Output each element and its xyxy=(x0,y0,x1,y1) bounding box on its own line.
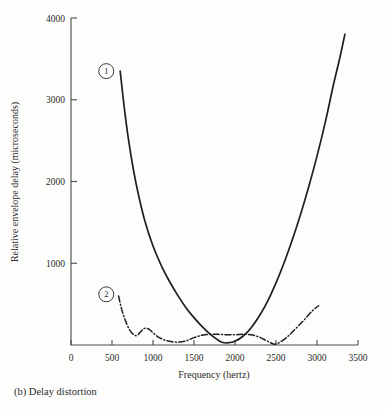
series-marker-label-2: 2 xyxy=(104,289,108,299)
x-tick-label: 0 xyxy=(69,353,74,363)
figure-delay-distortion: 0500100015002000250030003500100020003000… xyxy=(0,0,386,410)
x-tick-label: 3000 xyxy=(308,353,327,363)
y-tick-label: 4000 xyxy=(46,14,65,24)
curve-series-1 xyxy=(120,34,345,343)
series-marker-label-1: 1 xyxy=(104,66,108,76)
chart-curves xyxy=(119,34,345,344)
x-tick-label: 1500 xyxy=(185,353,204,363)
x-tick-label: 500 xyxy=(105,353,120,363)
chart-series-markers: 12 xyxy=(99,64,114,302)
figure-caption: (b) Delay distortion xyxy=(14,386,97,397)
curve-series-2 xyxy=(119,296,319,344)
y-tick-label: 3000 xyxy=(46,95,65,105)
y-tick-label: 2000 xyxy=(46,177,65,187)
chart-tick-labels: 0500100015002000250030003500100020003000… xyxy=(46,14,368,364)
x-tick-label: 2000 xyxy=(226,353,245,363)
y-axis-title: Relative envelope delay (microseconds) xyxy=(9,102,21,262)
chart-plot: 0500100015002000250030003500100020003000… xyxy=(0,0,386,410)
y-tick-label: 1000 xyxy=(46,259,65,269)
x-axis-title: Frequency (hertz) xyxy=(178,369,249,381)
x-tick-label: 1000 xyxy=(144,353,163,363)
x-tick-label: 2500 xyxy=(267,353,286,363)
x-tick-label: 3500 xyxy=(349,353,368,363)
